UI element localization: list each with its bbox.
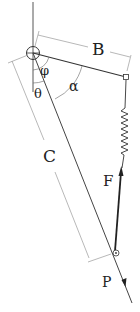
dim-c-line-bottom <box>55 172 89 258</box>
label-phi: φ <box>40 63 49 78</box>
mechanism-diagram: B C φ θ α F P <box>0 0 140 312</box>
bottom-joint-dot <box>115 252 117 254</box>
dim-b-ext-left <box>35 31 39 46</box>
label-p: P <box>102 274 111 290</box>
spring-link-top <box>125 80 126 108</box>
dim-b-ext-right <box>127 55 131 71</box>
right-joint <box>124 75 129 80</box>
label-c: C <box>43 146 56 166</box>
label-theta: θ <box>34 86 42 101</box>
label-f: F <box>103 172 113 190</box>
dim-b-line-left <box>38 35 88 47</box>
dim-c-ext-top <box>8 55 28 63</box>
spring-link-bottom <box>122 155 124 168</box>
label-alpha: α <box>69 78 79 94</box>
force-f-arrowhead <box>119 166 124 176</box>
label-b: B <box>92 39 105 59</box>
angle-theta-arc <box>33 81 44 83</box>
dim-c-ext-bottom <box>88 254 111 262</box>
force-f-line <box>115 172 121 251</box>
dim-b-line-right <box>110 52 130 57</box>
rod-c <box>33 53 132 303</box>
spring <box>121 108 128 155</box>
